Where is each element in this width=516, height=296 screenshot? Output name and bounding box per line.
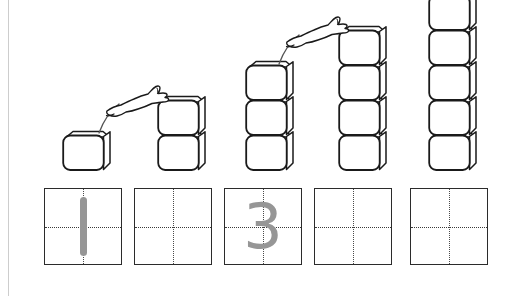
numeral-slot-empty	[315, 189, 391, 264]
tower-1-cube-stack	[63, 132, 110, 171]
grid-box-5[interactable]	[410, 188, 488, 265]
numeral-slot-empty	[411, 189, 487, 264]
tower-2-cube-stack	[158, 97, 205, 171]
numeral-three-trace: 3	[225, 189, 301, 264]
worksheet-page: 3	[0, 0, 516, 296]
numeral-one-stroke	[80, 197, 87, 256]
numeral-slot-empty	[135, 189, 211, 264]
grid-box-2[interactable]	[134, 188, 212, 265]
tower-4-cube-stack	[339, 27, 386, 171]
illustration-stage: 3	[0, 0, 516, 296]
tower-5-cube-stack	[429, 0, 476, 170]
grid-box-4[interactable]	[314, 188, 392, 265]
grid-box-1[interactable]	[44, 188, 122, 265]
numeral-one-trace	[45, 189, 121, 264]
tower-3-cube-stack	[246, 62, 293, 171]
grid-box-3[interactable]: 3	[224, 188, 302, 265]
